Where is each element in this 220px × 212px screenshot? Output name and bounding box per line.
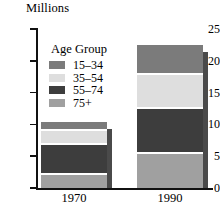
bar-segment[interactable] xyxy=(41,130,107,144)
bar-segment[interactable] xyxy=(137,45,203,74)
legend-items: 15–3435–5455–7475+ xyxy=(49,59,107,109)
legend-item-label: 55–74 xyxy=(73,84,103,96)
y-tick-mark xyxy=(30,187,37,189)
legend-item-label: 75+ xyxy=(73,97,92,109)
y-tick-mark xyxy=(30,28,37,30)
bar-shadow xyxy=(203,52,208,188)
bar-segment[interactable] xyxy=(137,153,203,188)
x-axis-label-1970: 1970 xyxy=(29,191,119,206)
bar-shadow xyxy=(107,129,112,188)
legend-title: Age Group xyxy=(51,42,107,57)
legend-swatch-icon xyxy=(49,74,65,82)
y-tick-mark xyxy=(30,124,37,126)
bar-segment[interactable] xyxy=(41,144,107,174)
legend-swatch-icon xyxy=(49,61,65,69)
bar-segment[interactable] xyxy=(41,174,107,188)
legend-item[interactable]: 75+ xyxy=(49,97,107,109)
legend-item-label: 35–54 xyxy=(73,72,103,84)
bar-segment[interactable] xyxy=(41,122,107,130)
legend-item[interactable]: 15–34 xyxy=(49,59,107,71)
bar-segment[interactable] xyxy=(137,74,203,108)
bar-1970[interactable] xyxy=(41,122,107,188)
legend: Age Group 15–3435–5455–7475+ xyxy=(49,42,107,109)
legend-swatch-icon xyxy=(49,99,65,107)
bar-1990[interactable] xyxy=(137,45,203,188)
stacked-bar-chart: Millions 2520151050 19701990 Age Group 1… xyxy=(0,0,220,212)
bar-segment[interactable] xyxy=(137,108,203,153)
y-tick-mark xyxy=(30,155,37,157)
x-axis-label-1990: 1990 xyxy=(125,191,215,206)
y-tick-mark xyxy=(30,60,37,62)
legend-swatch-icon xyxy=(49,86,65,94)
legend-item[interactable]: 55–74 xyxy=(49,84,107,96)
plot-area: 2520151050 19701990 xyxy=(0,0,220,212)
y-tick-mark xyxy=(30,92,37,94)
y-axis-line xyxy=(36,28,38,189)
y-tick-label: 25 xyxy=(194,23,220,35)
legend-item[interactable]: 35–54 xyxy=(49,72,107,84)
legend-item-label: 15–34 xyxy=(73,59,103,71)
